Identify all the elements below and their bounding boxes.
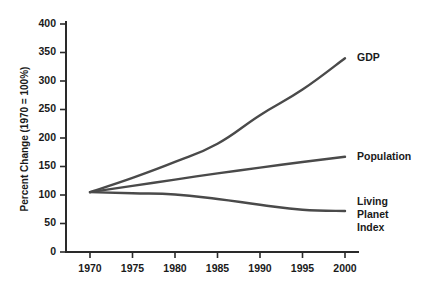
x-tick-label: 1995 [291, 262, 315, 274]
series-label-population: Population [357, 150, 411, 162]
x-tick-label: 1975 [121, 262, 145, 274]
series-label-text: GDP [357, 51, 380, 63]
y-tick-label: 0 [50, 245, 56, 257]
series-label-living-planet-index: LivingPlanetIndex [357, 195, 389, 233]
chart-container: Percent Change (1970 = 100%) 05010015020… [0, 0, 425, 292]
y-tick-label: 350 [38, 45, 56, 57]
series-label-text: Planet [357, 208, 389, 220]
x-tick-label: 1970 [78, 262, 102, 274]
line-chart: Percent Change (1970 = 100%) 05010015020… [0, 0, 425, 292]
x-tick-label: 1980 [163, 262, 187, 274]
y-tick-label: 200 [38, 131, 56, 143]
y-tick-label: 100 [38, 188, 56, 200]
series-label-text: Living [357, 195, 388, 207]
series-label-text: Population [357, 150, 411, 162]
y-tick-label: 150 [38, 159, 56, 171]
x-tick-label: 2000 [333, 262, 357, 274]
series-label-text: Index [357, 221, 385, 233]
y-axis-title: Percent Change (1970 = 100%) [19, 67, 30, 212]
series-label-gdp: GDP [357, 51, 380, 63]
y-tick-label: 250 [38, 102, 56, 114]
y-tick-label: 400 [38, 17, 56, 29]
x-tick-label: 1985 [206, 262, 230, 274]
x-tick-label: 1990 [248, 262, 272, 274]
y-tick-label: 300 [38, 74, 56, 86]
y-tick-label: 50 [44, 216, 56, 228]
